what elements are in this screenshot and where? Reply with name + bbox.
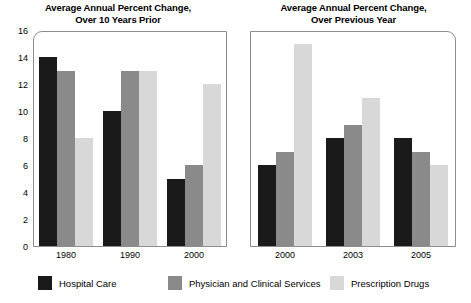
- bar-2000-hospital-care: [167, 179, 185, 247]
- y-axis-tick-0: 0: [23, 243, 28, 252]
- x-axis-label-2000: 2000: [184, 250, 204, 260]
- y-axis-tick-10: 10: [18, 108, 28, 117]
- y-axis-tick-4: 4: [23, 189, 28, 198]
- panel-right-title: Average Annual Percent Change, Over Prev…: [236, 2, 471, 26]
- bar-2003-physician-and-clinical-services: [344, 125, 362, 247]
- bar-1980-hospital-care: [39, 57, 57, 246]
- y-axis-tick-6: 6: [23, 162, 28, 171]
- bar-1990-prescription-drugs: [139, 71, 157, 247]
- y-axis: 0246810121416: [0, 31, 33, 247]
- bar-2000-hospital-care: [258, 165, 276, 246]
- legend-swatch-icon: [168, 276, 182, 290]
- bar-2000-prescription-drugs: [203, 84, 221, 246]
- y-axis-tick-2: 2: [23, 216, 28, 225]
- bar-group-1980: [39, 32, 93, 246]
- x-axis-label-2000: 2000: [275, 250, 295, 260]
- figure: Average Annual Percent Change, Over 10 Y…: [0, 0, 471, 303]
- legend-label: Prescription Drugs: [351, 278, 429, 289]
- x-axis-label-2005: 2005: [411, 250, 431, 260]
- bar-1990-hospital-care: [103, 111, 121, 246]
- bar-group-2000: [258, 32, 312, 246]
- bar-group-2005: [394, 32, 448, 246]
- legend-item-hospital-care[interactable]: Hospital Care: [38, 274, 117, 292]
- legend-item-prescription-drugs[interactable]: Prescription Drugs: [330, 274, 429, 292]
- legend-swatch-icon: [330, 276, 344, 290]
- x-axis-label-2003: 2003: [343, 250, 363, 260]
- y-axis-tick-14: 14: [18, 54, 28, 63]
- y-axis-tick-16: 16: [18, 27, 28, 36]
- bar-1980-physician-and-clinical-services: [57, 71, 75, 247]
- x-axis-label-1990: 1990: [120, 250, 140, 260]
- bar-2000-prescription-drugs: [294, 44, 312, 247]
- bar-1990-physician-and-clinical-services: [121, 71, 139, 247]
- bar-2005-prescription-drugs: [430, 165, 448, 246]
- panel-left-title: Average Annual Percent Change, Over 10 Y…: [0, 2, 236, 26]
- bar-2003-hospital-care: [326, 138, 344, 246]
- bar-group-2003: [326, 32, 380, 246]
- bar-1980-prescription-drugs: [75, 138, 93, 246]
- bar-2000-physician-and-clinical-services: [276, 152, 294, 247]
- plot-frame-right: [250, 31, 456, 247]
- legend-label: Hospital Care: [59, 278, 117, 289]
- y-axis-tick-12: 12: [18, 81, 28, 90]
- chart-legend: Hospital CarePhysician and Clinical Serv…: [0, 274, 471, 296]
- legend-swatch-icon: [38, 276, 52, 290]
- bars-left: [34, 32, 226, 246]
- legend-label: Physician and Clinical Services: [189, 278, 320, 289]
- bar-2000-physician-and-clinical-services: [185, 165, 203, 246]
- legend-item-physician-and-clinical-services[interactable]: Physician and Clinical Services: [168, 274, 320, 292]
- x-axis-label-1980: 1980: [56, 250, 76, 260]
- plot-frame-left: [33, 31, 227, 247]
- bars-right: [251, 32, 455, 246]
- bar-2005-hospital-care: [394, 138, 412, 246]
- bar-2005-physician-and-clinical-services: [412, 152, 430, 247]
- bar-group-2000: [167, 32, 221, 246]
- bar-group-1990: [103, 32, 157, 246]
- bar-2003-prescription-drugs: [362, 98, 380, 247]
- y-axis-tick-8: 8: [23, 135, 28, 144]
